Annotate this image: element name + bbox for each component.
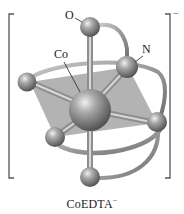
nitrogen-label: N (142, 43, 151, 55)
oxygen-label: O (65, 9, 74, 21)
ligand-atom-bottom (80, 167, 100, 187)
ligand-atom-right (147, 112, 167, 132)
oxygen-leader (75, 18, 82, 22)
coedta-molecular-diagram: O Co N − CoEDTA− (0, 0, 184, 214)
caption-formula: CoEDTA (67, 197, 113, 211)
molecule-svg (0, 0, 184, 214)
ligand-atom-left (18, 73, 37, 92)
ligand-atom-lower-left (45, 127, 65, 147)
nitrogen-leader (135, 56, 143, 62)
caption-charge: − (113, 196, 118, 205)
left-bracket (9, 14, 14, 178)
cobalt-atom (69, 89, 111, 131)
complex-charge: − (173, 8, 179, 19)
figure-caption: CoEDTA− (0, 197, 184, 212)
nitrogen-atom (116, 56, 138, 78)
oxygen-atom-top (80, 17, 100, 37)
cobalt-label: Co (54, 48, 68, 60)
